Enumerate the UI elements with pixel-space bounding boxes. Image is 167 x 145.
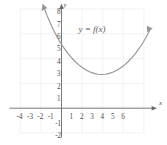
y-tick-label: 3 bbox=[57, 70, 61, 78]
y-tick-label: 5 bbox=[57, 45, 61, 53]
y-tick-label: 1 bbox=[57, 95, 61, 103]
x-tick-label: -1 bbox=[48, 113, 54, 121]
x-tick-label: -2 bbox=[37, 113, 43, 121]
y-tick-label: 4 bbox=[57, 58, 61, 66]
y-tick-label: 2 bbox=[57, 83, 61, 91]
x-tick-label: 5 bbox=[111, 113, 115, 121]
x-tick-label: 1 bbox=[70, 113, 74, 121]
graph-figure: -4 -3 -2 -1 1 2 3 4 5 6 -2 -1 1 2 3 4 5 … bbox=[0, 0, 167, 145]
y-tick-labels: -2 -1 1 2 3 4 5 6 7 8 bbox=[55, 8, 61, 140]
x-tick-label: 3 bbox=[90, 113, 94, 121]
y-axis-label: y bbox=[63, 1, 68, 9]
y-tick-label: 7 bbox=[57, 21, 61, 29]
function-label: y = f(x) bbox=[78, 24, 106, 34]
y-tick-label: 8 bbox=[57, 8, 61, 16]
x-tick-label: -4 bbox=[17, 113, 23, 121]
x-tick-label: 6 bbox=[121, 113, 125, 121]
x-tick-label: 4 bbox=[101, 113, 105, 121]
x-axis-label: x bbox=[158, 99, 163, 107]
x-axis-arrow-icon bbox=[152, 106, 157, 110]
y-tick-label: -1 bbox=[55, 120, 61, 128]
x-tick-labels: -4 -3 -2 -1 1 2 3 4 5 6 bbox=[17, 113, 126, 121]
x-tick-label: -3 bbox=[27, 113, 33, 121]
y-tick-label: 6 bbox=[57, 33, 61, 41]
x-tick-label: 2 bbox=[80, 113, 84, 121]
x-axis bbox=[10, 106, 158, 110]
coordinate-plane: -4 -3 -2 -1 1 2 3 4 5 6 -2 -1 1 2 3 4 5 … bbox=[0, 0, 167, 145]
y-tick-label: -2 bbox=[55, 132, 61, 140]
